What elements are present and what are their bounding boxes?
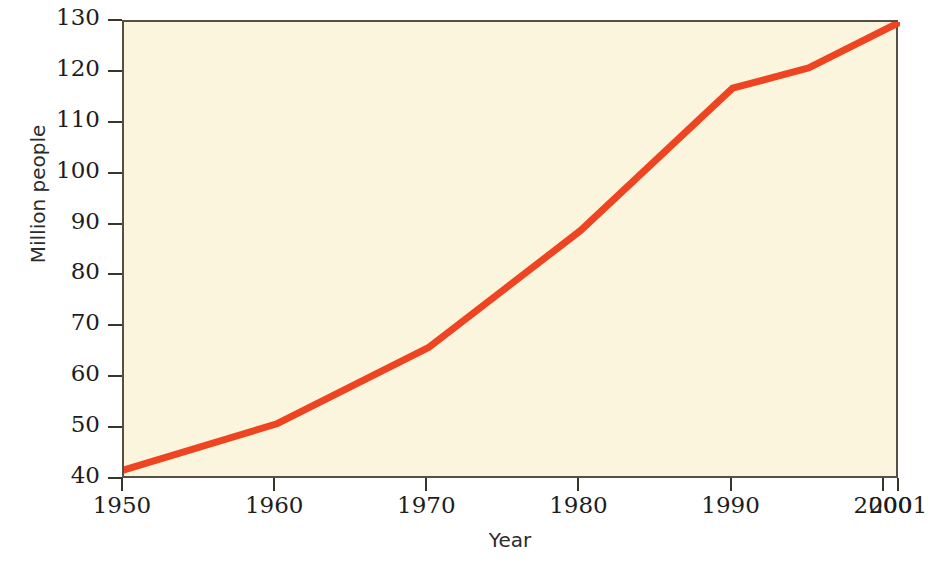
y-tick-label: 80 (20, 260, 100, 283)
x-tick-label: 2001 (838, 494, 943, 517)
x-tick-label: 1970 (366, 494, 486, 517)
x-tick-mark (273, 478, 275, 491)
y-tick-mark (108, 273, 122, 275)
y-tick-mark (108, 19, 122, 21)
y-tick-mark (108, 426, 122, 428)
y-tick-mark (108, 477, 122, 479)
x-tick-mark (577, 478, 579, 491)
x-tick-mark (425, 478, 427, 491)
y-tick-label: 110 (20, 108, 100, 131)
y-tick-mark (108, 375, 122, 377)
y-tick-label: 100 (20, 159, 100, 182)
x-tick-mark (121, 478, 123, 491)
y-tick-mark (108, 172, 122, 174)
x-tick-label: 1950 (62, 494, 182, 517)
population-line (124, 22, 900, 470)
y-tick-label: 40 (20, 464, 100, 487)
y-tick-label: 120 (20, 57, 100, 80)
x-tick-mark (882, 478, 884, 491)
y-tick-label: 130 (20, 6, 100, 29)
plot-area (122, 20, 898, 478)
scan-artifact-text (120, 0, 640, 7)
x-tick-mark (897, 478, 899, 491)
y-tick-label: 90 (20, 210, 100, 233)
x-tick-mark (730, 478, 732, 491)
y-tick-mark (108, 121, 122, 123)
x-tick-label: 1960 (214, 494, 334, 517)
chart-figure: Million people 130120110100908070605040 … (0, 0, 943, 569)
y-tick-mark (108, 324, 122, 326)
y-tick-label: 70 (20, 311, 100, 334)
x-tick-label: 1990 (671, 494, 791, 517)
y-tick-label: 60 (20, 362, 100, 385)
y-tick-label: 50 (20, 413, 100, 436)
x-axis-title: Year (122, 528, 898, 552)
y-tick-mark (108, 223, 122, 225)
x-tick-label: 1980 (518, 494, 638, 517)
y-tick-mark (108, 70, 122, 72)
data-line-series (124, 22, 900, 480)
